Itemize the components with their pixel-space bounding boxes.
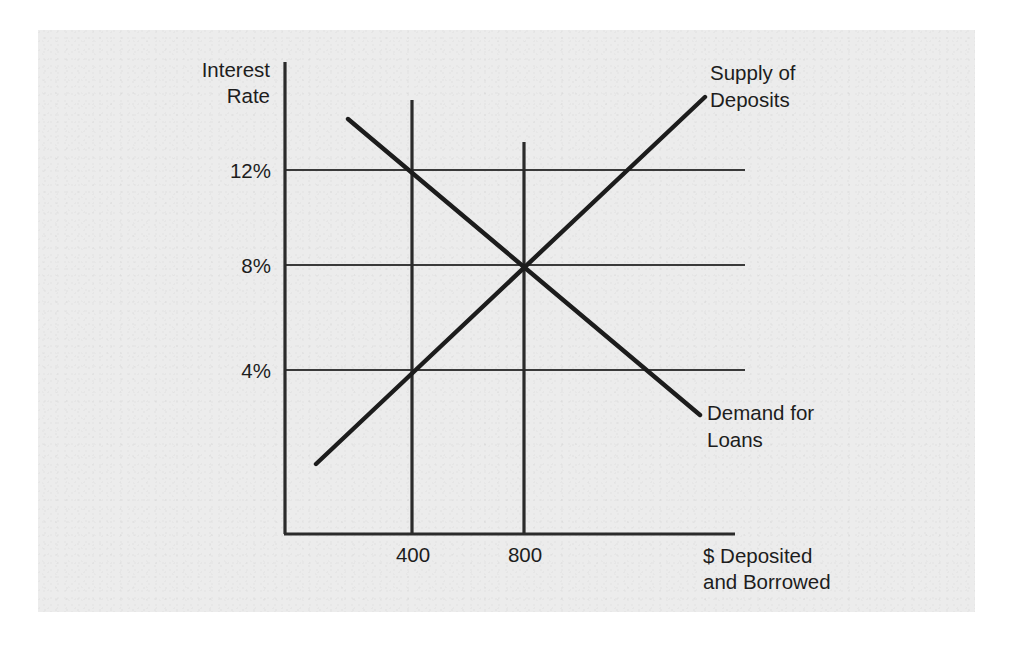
x-tick-labels: 400 800 [396, 543, 542, 566]
y-tick-label-8: 8% [241, 254, 271, 277]
curves [316, 97, 705, 464]
x-axis-title: $ Deposited and Borrowed [703, 544, 831, 593]
x-tick-label-400: 400 [396, 543, 430, 566]
supply-of-deposits-curve [316, 97, 705, 464]
supply-label-line1: Supply of [710, 61, 796, 84]
supply-label-line2: Deposits [710, 88, 790, 111]
y-tick-labels: 12% 8% 4% [230, 159, 271, 382]
quantity-reference-lines [412, 100, 524, 534]
demand-label-line2: Loans [707, 428, 763, 451]
demand-curve-label: Demand for Loans [707, 401, 814, 451]
y-axis-title-line1: Interest [202, 58, 271, 81]
supply-curve-label: Supply of Deposits [710, 61, 796, 111]
y-axis-title-line2: Rate [227, 84, 270, 107]
y-tick-label-12: 12% [230, 159, 271, 182]
supply-demand-chart: Interest Rate 12% 8% 4% 400 800 $ Deposi… [0, 0, 1028, 646]
x-axis-title-line1: $ Deposited [703, 544, 812, 567]
gridlines [285, 170, 745, 370]
y-tick-label-4: 4% [241, 359, 271, 382]
figure-root: Interest Rate 12% 8% 4% 400 800 $ Deposi… [0, 0, 1028, 646]
y-axis-title: Interest Rate [202, 58, 271, 107]
demand-label-line1: Demand for [707, 401, 814, 424]
x-tick-label-800: 800 [508, 543, 542, 566]
x-axis-title-line2: and Borrowed [703, 570, 831, 593]
